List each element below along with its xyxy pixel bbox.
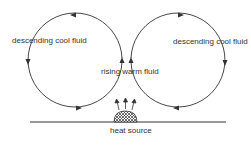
left-loop-label: descending cool fluid (12, 37, 87, 45)
heat-source-label: heat source (110, 127, 152, 135)
left-convection-loop (26, 13, 125, 111)
arrow-icon (129, 57, 134, 63)
arrow-icon (223, 60, 228, 66)
arrow-icon (26, 59, 31, 65)
rising-heat-arrows (115, 98, 136, 110)
right-loop-label: descending cool fluid (173, 38, 248, 46)
right-convection-loop (129, 13, 228, 111)
heat-source-icon (114, 111, 137, 122)
arrow-icon (173, 106, 179, 111)
arrow-icon (120, 57, 125, 63)
center-label: rising warm fluid (101, 68, 159, 76)
